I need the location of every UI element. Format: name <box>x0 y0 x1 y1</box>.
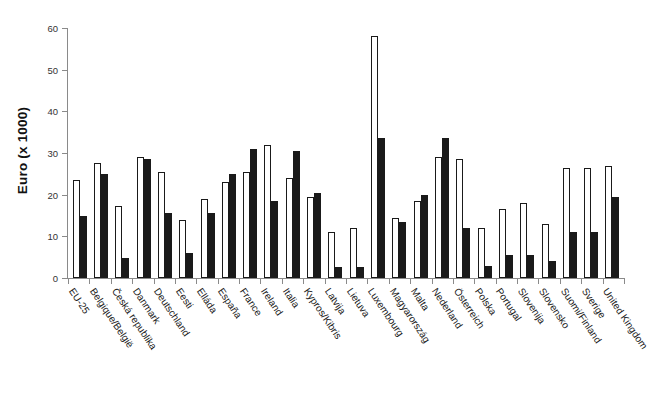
bar-black <box>101 174 108 278</box>
x-axis-tick <box>89 278 90 284</box>
bar-group <box>581 28 602 278</box>
bar-group <box>325 28 346 278</box>
x-axis-labels: EU-25Belgique/BelgiëČeská republikaDanma… <box>0 286 644 394</box>
bar-group <box>517 28 538 278</box>
x-axis-tick <box>196 278 197 284</box>
bar-white <box>73 180 80 278</box>
bar-white <box>137 157 144 278</box>
bar-black <box>485 266 492 278</box>
bar-group <box>410 28 431 278</box>
x-axis-tick <box>410 278 411 284</box>
x-axis-tick <box>282 278 283 284</box>
y-axis-title-text: Euro (x 1000) <box>16 106 31 193</box>
x-axis-label: Eesti <box>174 286 196 311</box>
bar-black <box>570 232 577 278</box>
bar-group <box>538 28 559 278</box>
x-axis-tick <box>517 278 518 284</box>
bar-white <box>115 206 122 278</box>
bar-group <box>133 28 154 278</box>
x-axis-tick <box>111 278 112 284</box>
bar-group <box>389 28 410 278</box>
bar-white <box>307 197 314 278</box>
x-axis-tick <box>496 278 497 284</box>
bar-group <box>240 28 261 278</box>
x-axis-tick <box>346 278 347 284</box>
bar-group <box>367 28 388 278</box>
x-axis-tick <box>303 278 304 284</box>
bar-white <box>478 228 485 278</box>
x-axis-tick <box>603 278 604 284</box>
bar-black <box>442 138 449 278</box>
y-axis-tick-label: 20 <box>47 189 58 200</box>
bar-black <box>421 195 428 278</box>
bar-white <box>179 220 186 278</box>
bar-white <box>371 36 378 278</box>
bar-group <box>602 28 623 278</box>
bar-group <box>112 28 133 278</box>
bar-black <box>165 213 172 278</box>
bar-white <box>201 199 208 278</box>
bar-black <box>357 267 364 278</box>
bar-black <box>378 138 385 278</box>
bar-white <box>350 228 357 278</box>
bar-black <box>506 255 513 278</box>
y-axis-tick-label: 0 <box>53 273 58 284</box>
x-axis-tick <box>260 278 261 284</box>
x-axis-tick <box>68 278 69 284</box>
bar-group <box>261 28 282 278</box>
bar-white <box>584 168 591 278</box>
bar-black <box>463 228 470 278</box>
x-axis-tick <box>325 278 326 284</box>
bar-white <box>435 157 442 278</box>
bar-black <box>186 253 193 278</box>
bar-white <box>605 166 612 278</box>
bar-groups <box>68 28 624 278</box>
x-axis-tick <box>474 278 475 284</box>
bar-black <box>591 232 598 278</box>
bar-white <box>286 178 293 278</box>
bar-group <box>303 28 324 278</box>
bar-group <box>559 28 580 278</box>
x-axis-label: Elláda <box>195 286 220 315</box>
x-axis-ticks <box>68 278 624 285</box>
bar-black <box>612 197 619 278</box>
bar-white <box>392 218 399 278</box>
bar-white <box>520 203 527 278</box>
bar-white <box>264 145 271 278</box>
x-axis-tick <box>175 278 176 284</box>
bar-white <box>542 224 549 278</box>
bar-white <box>499 209 506 278</box>
x-axis-tick <box>453 278 454 284</box>
y-axis-tick-label: 40 <box>47 106 58 117</box>
y-axis-tick-label: 60 <box>47 23 58 34</box>
x-axis-tick <box>239 278 240 284</box>
y-axis-tick-label: 30 <box>47 148 58 159</box>
x-axis-label: Italia <box>280 286 301 310</box>
y-axis-tick-label: 10 <box>47 231 58 242</box>
bar-group <box>176 28 197 278</box>
bar-black <box>527 255 534 278</box>
bar-white <box>158 172 165 278</box>
plot-area: 0102030405060 <box>68 28 624 278</box>
bar-white <box>563 168 570 278</box>
bar-white <box>243 172 250 278</box>
bar-group <box>474 28 495 278</box>
bar-group <box>453 28 474 278</box>
bar-black <box>144 159 151 278</box>
bar-white <box>94 163 101 278</box>
bar-group <box>431 28 452 278</box>
bar-group <box>346 28 367 278</box>
bar-black <box>293 151 300 278</box>
x-axis-tick <box>367 278 368 284</box>
x-axis-tick <box>218 278 219 284</box>
x-axis-label: United Kingdom <box>601 286 650 351</box>
bar-black <box>250 149 257 278</box>
bar-black <box>335 267 342 278</box>
bar-group <box>90 28 111 278</box>
bar-black <box>208 213 215 278</box>
bar-black <box>122 258 129 278</box>
x-axis-tick <box>560 278 561 284</box>
bar-group <box>69 28 90 278</box>
bar-black <box>80 216 87 279</box>
